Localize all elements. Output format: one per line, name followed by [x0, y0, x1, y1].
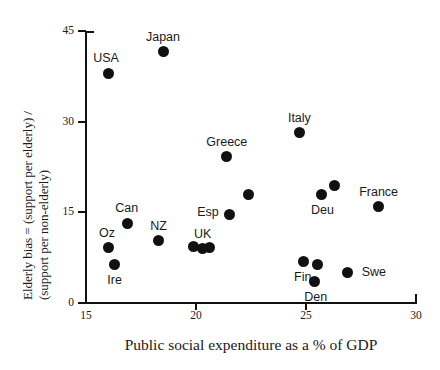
y-tick-label-45: 45 [52, 24, 74, 38]
data-point-can[interactable] [122, 218, 133, 229]
scatter-plot-figure: Elderly bias = (support per elderly) / (… [0, 0, 440, 370]
data-point-label-den: Den [304, 290, 327, 304]
data-point-label-italy: Italy [288, 111, 311, 125]
data-point-label-uk: UK [194, 227, 211, 241]
data-point-greece[interactable] [221, 151, 232, 162]
data-point-4[interactable] [243, 189, 254, 200]
data-point-oz[interactable] [103, 242, 114, 253]
x-tick-label-text: 20 [181, 309, 211, 321]
data-point-label-nz: NZ [150, 219, 167, 233]
x-axis-title: Public social expenditure as a % of GDP [86, 336, 416, 354]
data-point-label-deu: Deu [311, 203, 334, 217]
data-point-label-swe: Swe [362, 265, 386, 279]
y-tick-0 [78, 302, 86, 304]
data-point-esp[interactable] [224, 209, 235, 220]
y-tick-label-text: 0 [52, 296, 74, 308]
data-point-label-france: France [359, 185, 398, 199]
y-tick-label-30: 30 [52, 115, 74, 129]
x-tick-label-15: 15 [71, 309, 101, 323]
data-point-france[interactable] [373, 201, 384, 212]
data-point-label-can: Can [115, 201, 138, 215]
y-tick-label-text: 45 [52, 24, 74, 36]
data-point-swe[interactable] [342, 267, 353, 278]
data-point-italy[interactable] [294, 127, 305, 138]
data-point-label-oz: Oz [99, 226, 115, 240]
data-point-label-greece: Greece [206, 135, 247, 149]
x-tick-label-text: 15 [71, 309, 101, 321]
x-tick-label-30: 30 [401, 309, 431, 323]
y-axis-line [85, 31, 87, 304]
y-tick-30 [78, 121, 86, 123]
y-tick-15 [78, 211, 86, 213]
y-tick-45 [78, 30, 86, 32]
data-point-label-japan: Japan [146, 30, 180, 44]
data-point-10[interactable] [204, 242, 215, 253]
x-axis-line [85, 302, 417, 304]
data-point-17[interactable] [312, 259, 323, 270]
x-tick-label-20: 20 [181, 309, 211, 323]
data-point-label-usa: USA [93, 51, 119, 65]
data-point-fin[interactable] [298, 256, 309, 267]
data-point-label-esp: Esp [197, 205, 219, 219]
data-point-13[interactable] [329, 180, 340, 191]
y-axis-title: Elderly bias = (support per elderly) / (… [0, 0, 60, 320]
y-tick-label-15: 15 [52, 205, 74, 219]
x-axis-right-cap [415, 294, 417, 304]
data-point-nz[interactable] [153, 235, 164, 246]
data-point-usa[interactable] [103, 68, 114, 79]
y-tick-label-text: 30 [52, 115, 74, 127]
x-tick-label-text: 25 [291, 309, 321, 321]
data-point-label-ire: Ire [107, 273, 122, 287]
data-point-japan[interactable] [158, 46, 169, 57]
y-axis-title-line-2: (support per non-elderly) [36, 170, 52, 300]
x-tick-label-text: 30 [401, 309, 431, 321]
data-point-den[interactable] [309, 276, 320, 287]
y-axis-title-line-1: Elderly bias = (support per elderly) / [20, 111, 36, 300]
data-point-deu[interactable] [316, 189, 327, 200]
y-axis-top-cap [85, 31, 94, 33]
x-tick-label-25: 25 [291, 309, 321, 323]
data-point-ire[interactable] [109, 259, 120, 270]
y-tick-label-0: 0 [52, 296, 74, 310]
y-tick-label-text: 15 [52, 205, 74, 217]
